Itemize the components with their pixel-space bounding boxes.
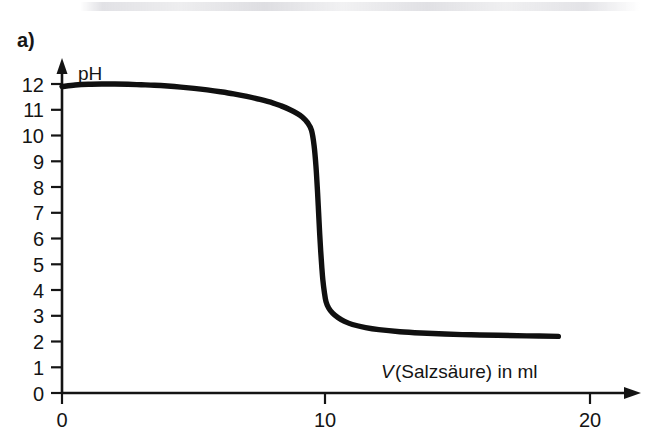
y-tick-label: 2 — [33, 331, 44, 353]
titration-curve-chart: 12 11 10 9 8 7 6 5 4 3 2 1 0 0 10 20 pH — [0, 0, 662, 435]
y-axis-ticks — [51, 84, 62, 393]
x-axis-ticks — [62, 393, 590, 404]
y-tick-label: 5 — [33, 254, 44, 276]
y-tick-label: 12 — [22, 74, 44, 96]
y-tick-label: 9 — [33, 151, 44, 173]
y-tick-label: 1 — [33, 357, 44, 379]
y-tick-label: 8 — [33, 177, 44, 199]
x-axis-title-symbol: V — [381, 361, 396, 382]
y-axis-tick-labels: 12 11 10 9 8 7 6 5 4 3 2 1 0 — [22, 74, 44, 405]
x-axis-title: V (Salzsäure) in ml — [381, 361, 538, 382]
y-tick-label: 3 — [33, 305, 44, 327]
x-axis — [62, 387, 641, 399]
y-axis-arrowhead — [57, 58, 68, 74]
x-tick-label: 20 — [579, 409, 601, 431]
y-tick-label: 4 — [33, 280, 44, 302]
y-axis — [57, 58, 68, 393]
x-tick-label: 0 — [56, 409, 67, 431]
x-axis-arrowhead — [624, 387, 641, 399]
y-tick-label: 10 — [22, 125, 44, 147]
x-axis-title-rest: (Salzsäure) in ml — [395, 361, 538, 382]
y-tick-label: 11 — [23, 99, 44, 121]
x-axis-tick-labels: 0 10 20 — [56, 409, 601, 431]
titration-curve-line — [62, 84, 558, 336]
y-tick-label: 6 — [33, 228, 44, 250]
y-tick-label: 0 — [33, 383, 44, 405]
figure-root: a) 12 — [0, 0, 662, 435]
y-axis-title: pH — [78, 63, 102, 84]
y-tick-label: 7 — [33, 202, 44, 224]
x-tick-label: 10 — [314, 409, 336, 431]
